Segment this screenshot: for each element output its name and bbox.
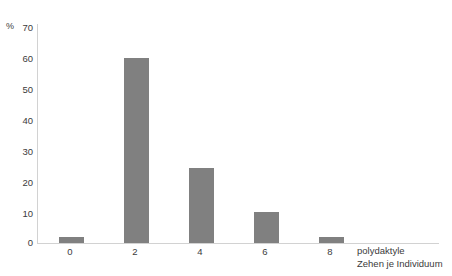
x-axis-tick-label: 2	[115, 246, 155, 257]
y-axis-tick-label: 0	[0, 238, 33, 248]
x-axis-title-line1: polydaktyle	[357, 245, 452, 258]
y-axis-tick-label: 60	[0, 54, 33, 64]
x-axis-title-line2: Zehen je Individuum	[357, 258, 452, 271]
x-axis-line	[37, 243, 439, 244]
y-axis-tick-label: 10	[0, 209, 33, 219]
bar-chart: % 70 60 50 40 30 20 10 0 0 2 4 6 8 polyd…	[0, 0, 452, 276]
y-axis-tick-label: 50	[0, 85, 33, 95]
x-axis-tick-label: 0	[50, 246, 90, 257]
x-axis-title: polydaktyle Zehen je Individuum	[357, 245, 452, 270]
y-axis-tick-label: 20	[0, 178, 33, 188]
plot-area	[37, 24, 439, 243]
x-axis-tick-label: 6	[245, 246, 285, 257]
x-axis-tick-label: 8	[310, 246, 350, 257]
bar	[189, 168, 214, 243]
bar	[254, 212, 279, 243]
bar	[124, 58, 149, 243]
y-axis-tick-label: 30	[0, 147, 33, 157]
y-axis-tick-label: 40	[0, 116, 33, 126]
y-axis-tick-label: 70	[0, 23, 33, 33]
x-axis-tick-label: 4	[180, 246, 220, 257]
